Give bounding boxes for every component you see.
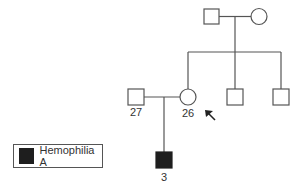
label-son-age: 3 — [161, 171, 167, 183]
legend-label: Hemophilia A — [39, 144, 102, 168]
grandmother-circle — [251, 9, 267, 25]
grandfather-square — [204, 9, 219, 24]
label-husband-age: 27 — [130, 106, 142, 118]
legend-affected-swatch-icon — [19, 148, 34, 164]
label-mother-age: 26 — [182, 107, 194, 119]
brother-1-square — [227, 89, 243, 105]
brother-2-square — [273, 89, 289, 105]
husband-square — [128, 89, 144, 105]
mother-circle — [180, 89, 196, 105]
legend: Hemophilia A — [13, 144, 103, 168]
affected-son-square — [156, 152, 172, 168]
proband-arrow-icon — [205, 110, 215, 120]
